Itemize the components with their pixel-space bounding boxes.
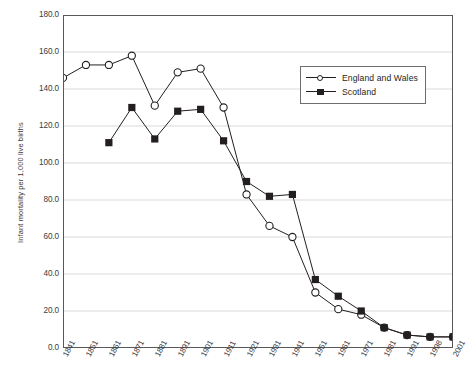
y-tick-label: 160.0 xyxy=(19,47,59,56)
clipped-title-strip: Infant mortality rates, England and Wale… xyxy=(0,0,460,11)
plot-frame xyxy=(63,15,453,348)
plot-area xyxy=(63,15,453,348)
y-tick-label: 0.0 xyxy=(19,343,59,352)
y-tick-label: 40.0 xyxy=(19,269,59,278)
y-tick-label: 80.0 xyxy=(19,195,59,204)
legend-label: Scotland xyxy=(342,87,376,97)
y-tick-label: 100.0 xyxy=(19,158,59,167)
y-tick-label: 120.0 xyxy=(19,121,59,130)
filled-square-marker-glyph xyxy=(317,89,324,96)
chart-legend: England and WalesScotland xyxy=(300,66,426,104)
filled-square-marker xyxy=(306,86,336,98)
legend-item: England and Wales xyxy=(306,71,418,85)
y-tick-label: 180.0 xyxy=(19,10,59,19)
open-circle-marker xyxy=(306,72,336,84)
y-tick-label: 60.0 xyxy=(19,232,59,241)
y-axis-tick-labels: 180.0160.0140.0120.0100.080.060.040.020.… xyxy=(19,0,59,387)
y-tick-label: 140.0 xyxy=(19,84,59,93)
legend-item: Scotland xyxy=(306,85,418,99)
y-tick-label: 20.0 xyxy=(19,306,59,315)
x-tick-label: 2001 xyxy=(451,339,467,358)
legend-label: England and Wales xyxy=(342,73,418,83)
open-circle-marker-glyph xyxy=(317,75,323,81)
x-axis-tick-labels: 1841185118611871188118911901191119211931… xyxy=(63,348,453,387)
